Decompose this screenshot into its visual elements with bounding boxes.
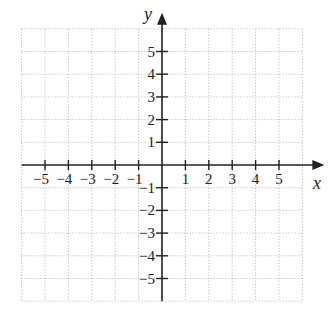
y-tick-label: 3: [148, 89, 156, 105]
y-tick-label: −5: [139, 271, 155, 287]
y-tick-label: −4: [139, 248, 155, 264]
y-axis-arrow-icon: [157, 13, 167, 25]
x-axis-label: x: [312, 173, 321, 193]
y-tick-label: 1: [148, 134, 156, 150]
y-tick-label: −2: [139, 202, 155, 218]
x-tick-label: −3: [80, 171, 96, 187]
y-tick-label: 5: [148, 44, 156, 60]
x-tick-label: 1: [182, 171, 190, 187]
x-tick-label: 5: [275, 171, 283, 187]
x-tick-label: 3: [228, 171, 236, 187]
x-axis-arrow-icon: [312, 160, 324, 170]
y-tick-label: 2: [148, 112, 156, 128]
x-tick-label: −5: [33, 171, 49, 187]
x-tick-label: 4: [252, 171, 260, 187]
y-tick-label: −1: [139, 180, 155, 196]
x-tick-label: −2: [103, 171, 119, 187]
coordinate-plane: −5−4−3−2−112345−5−4−3−2−112345 x y: [0, 0, 336, 331]
y-tick-label: −3: [139, 225, 155, 241]
y-tick-label: 4: [148, 66, 156, 82]
x-tick-label: 2: [205, 171, 213, 187]
x-tick-label: −4: [56, 171, 72, 187]
y-axis-label: y: [142, 4, 152, 24]
